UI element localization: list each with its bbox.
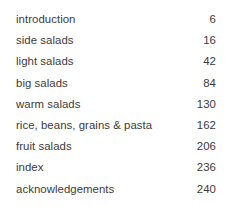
toc-entry-title: fruit salads	[16, 136, 72, 157]
toc-entry-title: introduction	[16, 9, 76, 30]
toc-entry-big-salads[interactable]: big salads 84	[16, 73, 216, 94]
toc-entry-page-number: 42	[194, 51, 216, 72]
toc-entry-page-number: 240	[194, 179, 216, 200]
toc-entry-rice-beans-grains-pasta[interactable]: rice, beans, grains & pasta 162	[16, 115, 216, 136]
toc-entry-introduction[interactable]: introduction 6	[16, 9, 216, 30]
toc-entry-page-number: 84	[194, 73, 216, 94]
toc-entry-title: rice, beans, grains & pasta	[16, 115, 152, 136]
toc-entry-page-number: 206	[194, 136, 216, 157]
toc-entry-title: warm salads	[16, 94, 80, 115]
toc-entry-page-number: 6	[194, 9, 216, 30]
toc-entry-title: side salads	[16, 30, 74, 51]
toc-entry-page-number: 236	[194, 157, 216, 178]
toc-entry-title: light salads	[16, 51, 74, 72]
toc-entry-page-number: 130	[194, 94, 216, 115]
toc-entry-index[interactable]: index 236	[16, 157, 216, 178]
toc-entry-fruit-salads[interactable]: fruit salads 206	[16, 136, 216, 157]
toc-entry-page-number: 162	[194, 115, 216, 136]
toc-entry-warm-salads[interactable]: warm salads 130	[16, 94, 216, 115]
toc-entry-title: index	[16, 157, 43, 178]
toc-entry-light-salads[interactable]: light salads 42	[16, 51, 216, 72]
toc-entry-title: acknowledgements	[16, 179, 114, 200]
toc-entry-title: big salads	[16, 73, 68, 94]
toc-entry-side-salads[interactable]: side salads 16	[16, 30, 216, 51]
table-of-contents: introduction 6 side salads 16 light sala…	[0, 0, 228, 212]
toc-entry-acknowledgements[interactable]: acknowledgements 240	[16, 179, 216, 200]
toc-entry-page-number: 16	[194, 30, 216, 51]
